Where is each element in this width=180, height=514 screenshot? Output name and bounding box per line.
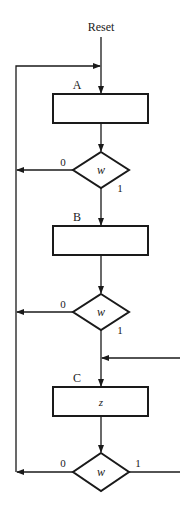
decision1-false-label: 0 <box>60 156 66 168</box>
state-box-b <box>53 226 148 255</box>
feedback-bus-left <box>16 66 100 472</box>
state-b-label: B <box>73 210 81 224</box>
decision1-condition: w <box>97 163 105 177</box>
state-box-a <box>53 94 148 123</box>
decision2-false-label: 0 <box>60 298 66 310</box>
decision3-true-label: 1 <box>135 457 141 469</box>
state-c-label: C <box>73 371 81 385</box>
decision3-condition: w <box>97 465 105 479</box>
decision2-condition: w <box>97 305 105 319</box>
asm-chart: Reset A w 0 1 B w 0 1 C z w 0 1 <box>0 0 180 514</box>
decision1-true-label: 1 <box>117 182 123 194</box>
reset-label: Reset <box>88 20 115 34</box>
state-c-output: z <box>98 396 104 408</box>
state-a-label: A <box>73 78 82 92</box>
decision3-false-label: 0 <box>60 457 66 469</box>
decision2-true-label: 1 <box>117 324 123 336</box>
